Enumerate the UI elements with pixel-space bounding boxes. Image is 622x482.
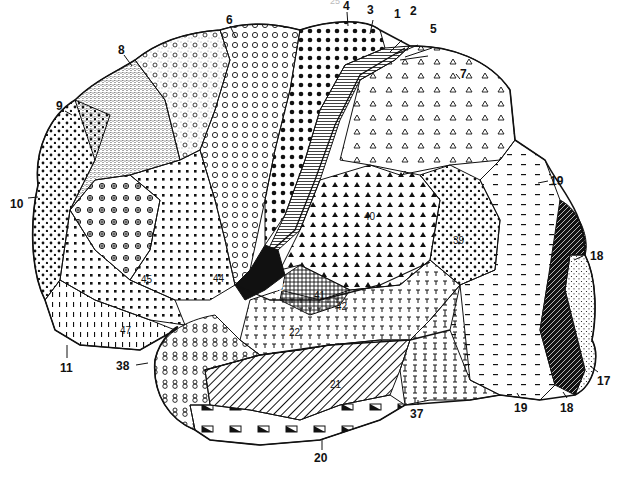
label-area-40: 40 (364, 211, 376, 222)
label-area-17: 17 (597, 374, 611, 388)
label-area-3: 3 (367, 3, 374, 17)
label-area-7: 7 (460, 67, 467, 81)
label-area-43: 43 (273, 282, 285, 293)
label-area-4: 4 (343, 0, 350, 13)
label-area-47: 47 (120, 325, 132, 336)
label-area-37: 37 (410, 407, 424, 421)
label-area-39: 39 (453, 235, 465, 246)
label-area-20: 20 (314, 451, 328, 465)
label-area-22: 22 (289, 327, 301, 338)
label-area-44: 44 (213, 273, 225, 284)
label-area-19-upper: 19 (550, 174, 564, 188)
label-area-11: 11 (60, 361, 73, 375)
label-area-38: 38 (116, 359, 130, 373)
label-area-2: 2 (410, 4, 417, 18)
label-area-9: 9 (56, 99, 63, 113)
label-area-21: 21 (330, 379, 342, 390)
label-area-18-lower: 18 (560, 401, 574, 415)
label-area-41: 41 (314, 290, 326, 301)
label-area-1: 1 (394, 7, 401, 21)
label-area-19-lower: 19 (514, 401, 528, 415)
label-area-5: 5 (430, 22, 437, 36)
label-area-6: 6 (226, 13, 233, 27)
label-area-42: 42 (336, 301, 348, 312)
label-area-45: 45 (141, 274, 153, 285)
brain-regions (33, 22, 596, 445)
brain-area-map: 1 2 3 4 5 6 7 8 9 10 11 17 18 18 19 19 2… (0, 0, 622, 482)
label-area-10: 10 (10, 197, 24, 211)
label-area-8: 8 (118, 43, 125, 57)
label-area-18-upper: 18 (590, 249, 604, 263)
